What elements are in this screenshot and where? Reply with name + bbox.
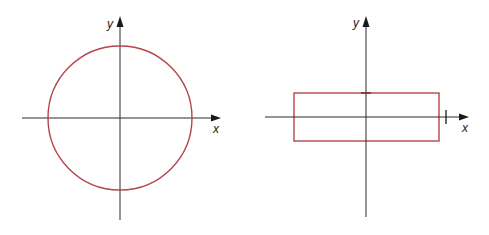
- right-x-axis-arrow-icon: [459, 114, 469, 121]
- left-y-axis-label: y: [106, 17, 114, 31]
- figure: y x y x: [0, 0, 489, 235]
- left-x-axis-arrow-icon: [211, 115, 221, 122]
- right-x-axis-label: x: [461, 121, 469, 135]
- right-graph: y x: [265, 16, 469, 217]
- left-graph: y x: [22, 16, 221, 220]
- right-y-axis-label: y: [352, 16, 360, 30]
- left-x-axis-label: x: [212, 122, 220, 136]
- right-y-axis-arrow-icon: [363, 16, 370, 27]
- left-y-axis-arrow-icon: [117, 16, 124, 27]
